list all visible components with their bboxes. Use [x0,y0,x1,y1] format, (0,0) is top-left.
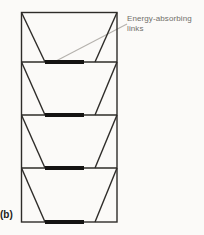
trapezoid-4-right-diagonal [95,168,117,222]
trapezoid-2-left-diagonal [22,62,46,115]
annotation-line-2: links [127,24,192,34]
stacked-trapezoid-diagram [0,0,204,235]
energy-absorbing-link-2 [45,113,84,117]
trapezoid-3-left-diagonal [22,115,46,168]
trapezoid-4-left-diagonal [22,168,46,222]
energy-absorbing-link-1 [45,60,84,64]
panel-label: (b) [0,209,13,220]
annotation-line-1: Energy-absorbing [127,14,192,24]
annotation-label: Energy-absorbing links [127,14,192,34]
energy-absorbing-link-3 [45,166,84,170]
trapezoid-3-right-diagonal [95,115,117,168]
trapezoid-1-right-diagonal [95,13,117,63]
trapezoid-2-right-diagonal [95,62,117,115]
energy-absorbing-link-4 [45,220,84,224]
energy-absorbing-structure-figure: Energy-absorbing links (b) [0,0,204,235]
trapezoid-1-left-diagonal [22,13,46,63]
